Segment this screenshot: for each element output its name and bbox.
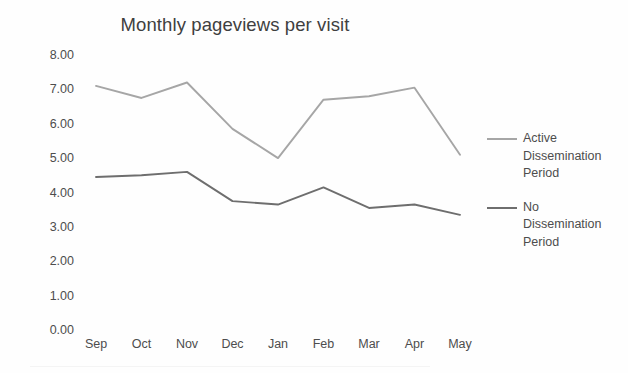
y-axis: 8.007.006.005.004.003.002.001.000.00 bbox=[22, 55, 74, 330]
plot-area bbox=[78, 55, 478, 330]
series-line bbox=[96, 83, 460, 159]
y-tick-label: 8.00 bbox=[22, 48, 74, 62]
x-tick-label: Apr bbox=[405, 337, 424, 351]
y-tick-label: 2.00 bbox=[22, 254, 74, 268]
legend-entry[interactable]: No Dissemination Period bbox=[487, 199, 622, 252]
chart-legend: Active Dissemination PeriodNo Disseminat… bbox=[487, 130, 622, 267]
y-tick-label: 5.00 bbox=[22, 151, 74, 165]
series-lines bbox=[78, 55, 478, 330]
y-tick-label: 3.00 bbox=[22, 220, 74, 234]
legend-swatch-line-icon bbox=[487, 138, 517, 140]
x-tick-label: Feb bbox=[313, 337, 335, 351]
x-tick-label: Oct bbox=[132, 337, 151, 351]
x-tick-label: Nov bbox=[176, 337, 198, 351]
chart-figure: Monthly pageviews per visit 8.007.006.00… bbox=[0, 0, 628, 373]
y-tick-label: 1.00 bbox=[22, 289, 74, 303]
x-tick-label: Mar bbox=[358, 337, 380, 351]
y-tick-label: 0.00 bbox=[22, 323, 74, 337]
legend-swatch-line-icon bbox=[487, 207, 517, 209]
legend-entry[interactable]: Active Dissemination Period bbox=[487, 130, 622, 183]
legend-label: No Dissemination Period bbox=[523, 199, 619, 252]
x-tick-label: Dec bbox=[221, 337, 243, 351]
y-tick-label: 6.00 bbox=[22, 117, 74, 131]
y-tick-label: 4.00 bbox=[22, 186, 74, 200]
x-axis: SepOctNovDecJanFebMarAprMay bbox=[78, 337, 478, 359]
chart-title: Monthly pageviews per visit bbox=[0, 14, 470, 36]
series-line bbox=[96, 172, 460, 215]
legend-label: Active Dissemination Period bbox=[523, 130, 619, 183]
x-tick-label: May bbox=[448, 337, 472, 351]
scan-artifact bbox=[30, 366, 430, 367]
x-tick-label: Jan bbox=[268, 337, 288, 351]
y-tick-label: 7.00 bbox=[22, 82, 74, 96]
x-tick-label: Sep bbox=[85, 337, 107, 351]
